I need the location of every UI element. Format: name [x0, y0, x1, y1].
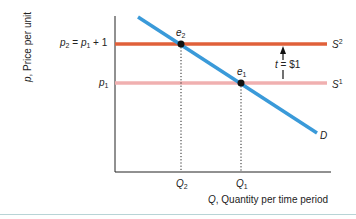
label-d: D — [320, 131, 327, 141]
bottom-separator — [0, 214, 356, 215]
demand-curve — [138, 17, 317, 133]
e1-sub: 1 — [243, 71, 247, 78]
x-tick-q2: Q2 — [176, 179, 188, 190]
tax-label: t = $1 — [274, 60, 301, 70]
tax-arrow-head — [280, 46, 286, 54]
y-axis-text: , Price per unit — [22, 12, 33, 76]
label-s2: S2 — [332, 38, 343, 50]
q1-var: Q — [236, 178, 244, 189]
label-e2: e2 — [176, 28, 185, 39]
p1-sub: 1 — [105, 82, 109, 89]
s2-sup: 2 — [339, 38, 343, 45]
q2-var: Q — [176, 178, 184, 189]
p2-eq: = — [69, 37, 80, 48]
x-axis-var: Q — [208, 194, 216, 205]
x-axis-text: , Quantity per time period — [216, 194, 328, 205]
x-axis-label: Q, Quantity per time period — [208, 195, 328, 205]
tax-value: = $1 — [278, 59, 301, 70]
label-e1: e1 — [237, 67, 246, 78]
equilibrium-point-e1 — [238, 80, 245, 87]
s1-var: S — [332, 79, 339, 90]
equilibrium-point-e2 — [178, 41, 185, 48]
s1-sup: 1 — [339, 78, 343, 85]
p2-end: + 1 — [90, 37, 107, 48]
label-s1: S1 — [332, 78, 343, 90]
y-tick-p2: p2 = p1 + 1 — [60, 38, 107, 49]
y-axis-label: p, Price per unit — [22, 12, 33, 82]
x-tick-q1: Q1 — [236, 179, 248, 190]
y-axis-var: p — [22, 76, 33, 82]
q2-sub: 2 — [184, 183, 188, 190]
y-tick-p1: p1 — [99, 78, 108, 89]
s2-var: S — [332, 39, 339, 50]
e2-sub: 2 — [182, 32, 186, 39]
q1-sub: 1 — [244, 183, 248, 190]
